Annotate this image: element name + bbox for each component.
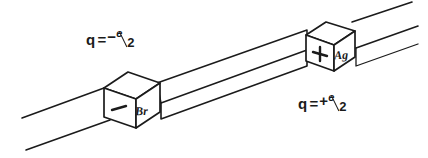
right-charge-equals: = xyxy=(309,96,318,111)
left-charge-fraction-bar xyxy=(118,32,127,48)
strip-right-bottom-rail xyxy=(356,26,418,48)
strip-left-bottom-rail xyxy=(26,120,110,150)
right-charge-fraction-bar xyxy=(330,96,339,112)
strip-right-top-rail xyxy=(352,2,412,22)
right-charge-sign: + xyxy=(319,93,328,108)
strip-right-segment xyxy=(352,2,418,66)
strip-left-segment xyxy=(22,88,110,150)
left-cube xyxy=(104,72,160,128)
right-cube-element-label: Ag xyxy=(334,49,348,61)
left-cube-element-label: Br xyxy=(135,105,148,117)
left-charge-sign: − xyxy=(107,29,116,44)
left-charge-equals: = xyxy=(97,32,106,47)
right-cube xyxy=(306,22,355,71)
right-charge-denominator: 2 xyxy=(339,100,346,113)
left-charge-denominator: 2 xyxy=(127,36,134,49)
strip-middle-top-face xyxy=(157,30,307,103)
strip-right-front-face xyxy=(356,44,418,66)
diagram-canvas: Br Ag q = − e 2 q = + e 2 xyxy=(0,0,428,158)
strip-middle-band xyxy=(157,30,307,119)
left-charge-fraction: e 2 xyxy=(116,29,136,49)
right-charge-label: q = + e 2 xyxy=(298,93,348,113)
strip-left-top-rail xyxy=(22,88,104,118)
right-charge-variable: q xyxy=(298,96,307,111)
left-charge-label: q = − e 2 xyxy=(86,29,136,49)
left-charge-variable: q xyxy=(86,32,95,47)
right-charge-fraction: e 2 xyxy=(328,93,348,113)
diagram-svg xyxy=(0,0,428,158)
